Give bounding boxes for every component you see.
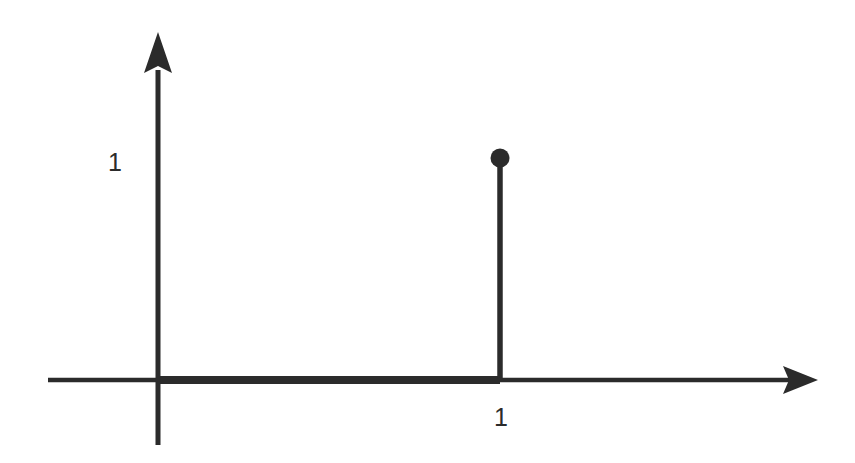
figure-canvas: 1 1 xyxy=(0,0,855,463)
impulse-endpoint-dot xyxy=(491,149,510,168)
y-axis-arrowhead-icon xyxy=(144,32,172,73)
x-axis-tick-label-1: 1 xyxy=(494,405,508,430)
impulse-plot xyxy=(0,0,855,463)
y-axis-tick-label-1: 1 xyxy=(108,150,122,175)
